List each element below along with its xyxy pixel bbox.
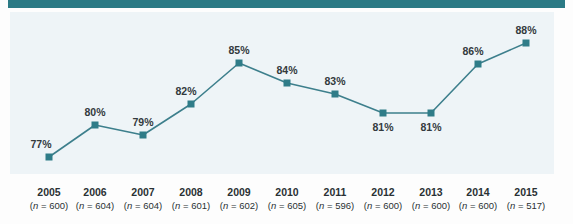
x-tick-year-label: 2007 [124, 186, 162, 199]
x-tick-sample-size-label: (n = 600) [30, 199, 68, 212]
x-tick-year-label: 2009 [220, 186, 258, 199]
data-point-marker-2013 [428, 110, 435, 117]
chart-figure: 77%80%79%82%85%84%83%81%81%86%88% 2005(n… [0, 0, 573, 224]
data-label-2008: 82% [175, 85, 196, 97]
data-point-marker-2015 [523, 40, 530, 47]
x-tick-year-label: 2011 [316, 186, 354, 199]
data-point-marker-2007 [140, 132, 147, 139]
data-label-2010: 84% [276, 64, 297, 76]
data-label-2012: 81% [372, 121, 393, 133]
series-line [49, 43, 526, 157]
data-point-marker-2005 [46, 154, 53, 161]
x-tick-2006: 2006(n = 604) [76, 186, 114, 212]
data-label-2006: 80% [84, 106, 105, 118]
data-label-2011: 83% [324, 75, 345, 87]
x-tick-sample-size-label: (n = 600) [364, 199, 402, 212]
x-tick-2009: 2009(n = 602) [220, 186, 258, 212]
x-tick-sample-size-label: (n = 602) [220, 199, 258, 212]
series-markers [46, 40, 530, 161]
data-point-marker-2010 [284, 80, 291, 87]
x-tick-year-label: 2008 [172, 186, 210, 199]
x-tick-2012: 2012(n = 600) [364, 186, 402, 212]
x-tick-sample-size-label: (n = 600) [412, 199, 450, 212]
x-tick-2010: 2010(n = 605) [268, 186, 306, 212]
x-tick-2007: 2007(n = 604) [124, 186, 162, 212]
x-tick-sample-size-label: (n = 604) [76, 199, 114, 212]
x-tick-2014: 2014(n = 600) [459, 186, 497, 212]
data-label-2014: 86% [462, 45, 483, 57]
data-point-marker-2012 [380, 110, 387, 117]
data-label-2015: 88% [515, 24, 536, 36]
x-tick-2005: 2005(n = 600) [30, 186, 68, 212]
data-point-marker-2014 [475, 61, 482, 68]
x-tick-year-label: 2010 [268, 186, 306, 199]
x-tick-year-label: 2013 [412, 186, 450, 199]
data-label-2007: 79% [132, 116, 153, 128]
x-tick-year-label: 2006 [76, 186, 114, 199]
x-tick-2008: 2008(n = 601) [172, 186, 210, 212]
data-point-marker-2009 [236, 60, 243, 67]
x-tick-sample-size-label: (n = 605) [268, 199, 306, 212]
x-tick-2011: 2011(n = 596) [316, 186, 354, 212]
x-tick-sample-size-label: (n = 596) [316, 199, 354, 212]
x-tick-year-label: 2015 [507, 186, 545, 199]
x-tick-2015: 2015(n = 517) [507, 186, 545, 212]
x-tick-2013: 2013(n = 600) [412, 186, 450, 212]
data-label-2009: 85% [228, 44, 249, 56]
data-point-marker-2008 [188, 101, 195, 108]
x-tick-year-label: 2014 [459, 186, 497, 199]
x-tick-year-label: 2005 [30, 186, 68, 199]
x-tick-sample-size-label: (n = 601) [172, 199, 210, 212]
data-point-marker-2011 [332, 91, 339, 98]
x-tick-sample-size-label: (n = 517) [507, 199, 545, 212]
data-label-2005: 77% [30, 138, 51, 150]
data-point-marker-2006 [92, 122, 99, 129]
x-tick-sample-size-label: (n = 604) [124, 199, 162, 212]
x-tick-year-label: 2012 [364, 186, 402, 199]
data-label-2013: 81% [420, 121, 441, 133]
x-tick-sample-size-label: (n = 600) [459, 199, 497, 212]
